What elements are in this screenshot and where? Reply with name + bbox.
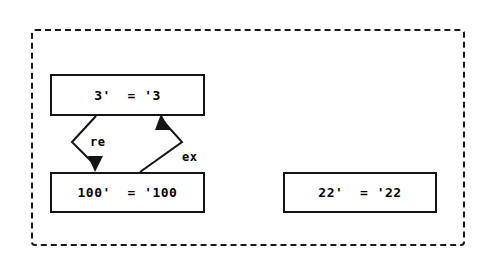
- node-top[interactable]: 3' = '3: [50, 74, 205, 116]
- edge-label-re: re: [90, 135, 105, 149]
- node-right[interactable]: 22' = '22: [283, 172, 437, 213]
- diagram-canvas: re ex 3' = '3 100' = '100 22' = '22: [0, 0, 486, 262]
- edge-label-ex: ex: [182, 150, 197, 164]
- node-bottom[interactable]: 100' = '100: [50, 172, 205, 213]
